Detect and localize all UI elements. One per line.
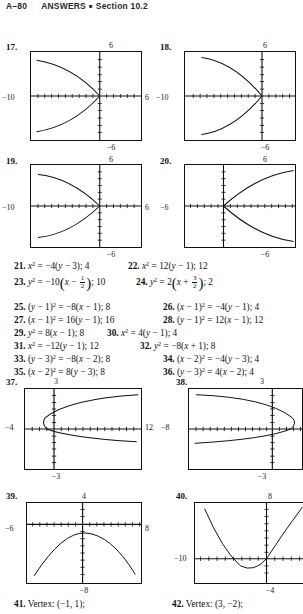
answer-body-35: (x − 2)2 = 8(y − 3); 8 [28,367,105,377]
graph-20-top-label: 6 [263,155,267,164]
answer-body-31: x2 = −12(y − 1); 12 [28,341,99,351]
answer-number-41: 41. [14,599,26,609]
answer-body-32: y2 = −8(x + 1); 8 [154,341,216,351]
graph-18-bottom-label: −6 [261,143,270,152]
graph-17-bottom-label: −6 [107,143,116,152]
graph-18-top-label: 6 [263,41,267,50]
graph-40-plot [195,503,303,583]
answer-number-26: 26. [163,302,175,312]
answer-number-36: 36. [163,367,175,377]
graph-17-plot [31,52,141,140]
vertex-value-41: (−1, 1); [57,599,85,609]
answers-page: A–80ANSWERS■Section 10.2 17. 6 −10 6 −6 [0,0,303,614]
graph-19-plot [31,165,141,247]
answer-number-28: 28. [163,315,175,325]
graph-37-plot [25,389,141,469]
graph-screen-18 [184,51,296,141]
vertex-value-42: (3, −2); [215,599,243,609]
graph-40-left-label: −10 [174,554,187,563]
graph-number-39: 39. [6,491,17,501]
graph-screen-37 [24,388,142,470]
answer-body-24: y2 = 2(x + 32); 2 [150,277,213,287]
graph-39-top-label: 4 [82,492,86,501]
answer-number-34: 34. [163,354,175,364]
graph-19-left-label: −10 [2,203,15,212]
answer-body-27: (x − 1)2 = 16(y − 1); 16 [28,315,114,325]
header-title: ANSWERS [41,1,86,11]
graph-screen-19 [30,164,142,248]
graph-screen-20 [184,164,296,248]
running-head: A–80ANSWERS■Section 10.2 [6,1,148,11]
graph-37-left-label: −4 [5,423,14,432]
answer-number-35: 35. [14,367,26,377]
graph-18-plot [185,52,295,140]
vertex-label-41: Vertex: [28,599,55,609]
graph-20-plot [185,165,295,247]
graph-19-right-label: 6 [145,203,149,212]
answer-body-36: (y − 3)2 = 4(x − 2); 4 [177,367,254,377]
graph-38-top-label: 3 [260,377,264,386]
page-number: A–80 [6,1,27,11]
answer-number-25: 25. [14,302,26,312]
graph-40-top-label: 8 [268,492,272,501]
graph-37-top-label: 3 [54,377,58,386]
answer-number-33: 33. [14,354,26,364]
graph-37-bottom-label: −3 [52,472,61,481]
graph-37-right-label: 12 [145,423,153,432]
answer-number-21: 21. [14,261,26,271]
graph-20-left-label: −6 [160,203,169,212]
answer-body-22: x2 = 12(y − 1); 12 [142,261,208,271]
graph-screen-40 [194,502,303,584]
graph-number-40: 40. [176,491,187,501]
graph-20-bottom-label: −6 [261,250,270,259]
graph-39-right-label: 8 [145,524,149,533]
graph-screen-17 [30,51,142,141]
answer-body-33: (y − 3)2 = −8(x − 2); 8 [28,354,110,364]
graph-38-left-label: −8 [161,423,170,432]
graph-screen-38 [188,388,303,470]
graph-18-left-label: −10 [156,93,169,102]
graph-38-plot [189,389,302,469]
answer-body-21: x2 = −4(y − 3); 4 [28,261,90,271]
graph-number-19: 19. [6,156,17,166]
answer-body-23: y2 = −10(x − 12); 10 [28,277,106,287]
answer-number-24: 24. [136,277,148,287]
graph-screen-39 [26,502,142,584]
answer-number-27: 27. [14,315,26,325]
graph-38-bottom-label: −3 [258,472,267,481]
graph-40-bottom-label: −4 [266,586,275,595]
graph-39-bottom-label: −8 [80,586,89,595]
vertex-label-42: Vertex: [186,599,213,609]
answer-number-29: 29. [14,328,26,338]
answer-body-25: (y − 1)2 = −8(x − 1); 8 [28,302,110,312]
square-bullet-icon: ■ [89,3,93,9]
graph-number-38: 38. [176,377,187,387]
graph-19-top-label: 6 [109,155,113,164]
answer-body-30: x2 = 4(y − 1); 4 [121,328,177,338]
answer-number-32: 32. [140,341,152,351]
graph-17-left-label: −10 [2,93,15,102]
graph-17-top-label: 6 [109,41,113,50]
answer-number-42: 42. [172,599,184,609]
graph-number-17: 17. [6,42,17,52]
graph-number-37: 37. [6,377,17,387]
answer-number-23: 23. [14,277,26,287]
answer-body-29: y2 = 8(x − 1); 8 [28,328,84,338]
graph-17-right-label: 6 [145,93,149,102]
graph-39-left-label: −6 [5,524,14,533]
header-section: Section 10.2 [96,1,148,11]
graph-number-20: 20. [160,156,171,166]
answer-body-26: (x − 1)2 = −4(y − 1); 4 [177,302,259,312]
answer-number-22: 22. [128,261,140,271]
answer-number-31: 31. [14,341,26,351]
graph-number-18: 18. [160,42,171,52]
answer-body-34: (x − 2)2 = −4(y − 3); 4 [177,354,259,364]
answer-body-28: (y − 1)2 = 12(x − 1); 12 [177,315,263,325]
graph-19-bottom-label: −6 [107,250,116,259]
answer-number-30: 30. [107,328,119,338]
graph-39-plot [27,503,141,583]
